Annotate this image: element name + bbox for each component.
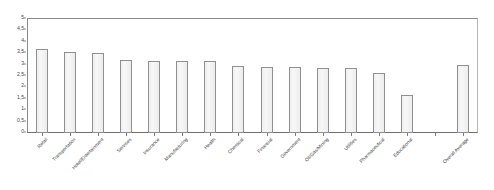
y-axis-tick-mark <box>24 18 26 19</box>
y-axis-tick-label: 4 <box>0 38 24 43</box>
x-axis-category-label-text: Overall Average <box>442 137 470 165</box>
y-axis-tick-mark <box>24 29 26 30</box>
x-axis-category-label-text: Government <box>279 137 301 159</box>
y-axis-tick-mark <box>24 120 26 121</box>
x-axis-category-label-text: Utilities <box>343 137 357 151</box>
x-axis-category-label-text: Hotel/Entertainment <box>71 137 104 170</box>
bar-slot <box>309 19 337 133</box>
bar <box>148 61 160 133</box>
bar-slot <box>365 19 393 133</box>
y-axis-tick-label: 3 <box>0 61 24 66</box>
bar-chart: 00,511,522,533,544,55 RetailTransportati… <box>0 0 494 190</box>
bar-slot <box>196 19 224 133</box>
y-axis-tick-label: 2,5 <box>0 72 24 77</box>
bar <box>289 67 301 133</box>
y-axis-tick-label: 4,5 <box>0 27 24 32</box>
bar-slot <box>168 19 196 133</box>
bar-slot <box>421 19 449 133</box>
x-axis-category-label-text: Oil/Gas/Mining <box>303 137 329 163</box>
y-axis-tick-label: 3,5 <box>0 50 24 55</box>
y-axis-tick-label: 1,5 <box>0 95 24 100</box>
x-axis-tick <box>154 133 155 136</box>
x-axis-tick <box>379 133 380 136</box>
bar-slot <box>253 19 281 133</box>
y-axis-tick-mark <box>24 86 26 87</box>
x-axis-tick <box>238 133 239 136</box>
bar <box>176 61 188 133</box>
x-axis-tick <box>42 133 43 136</box>
x-axis-category-label-text: Insurance <box>142 137 160 155</box>
bar <box>373 73 385 133</box>
x-axis-tick <box>126 133 127 136</box>
y-axis: 00,511,522,533,544,55 <box>0 18 24 133</box>
bar <box>261 67 273 133</box>
y-axis-tick-mark <box>24 52 26 53</box>
y-axis-tick-mark <box>24 63 26 64</box>
x-axis-category-label-text: Health <box>204 137 217 150</box>
y-axis-tick-label: 0 <box>0 129 24 134</box>
x-axis-category-label-text: Financial <box>256 137 273 154</box>
bar-slot <box>337 19 365 133</box>
y-axis-tick-mark <box>24 132 26 133</box>
x-axis-tick <box>98 133 99 136</box>
y-axis-tick-label: 5 <box>0 15 24 20</box>
x-axis-category-label-text: Chemical <box>227 137 245 155</box>
x-axis-tick <box>407 133 408 136</box>
x-axis-category-label-text: Pharmaceutical <box>358 137 385 164</box>
y-axis-tick-label: 2 <box>0 84 24 89</box>
y-axis-tick-mark <box>24 40 26 41</box>
x-axis-tick <box>295 133 296 136</box>
x-axis-labels: RetailTransportationHotel/EntertainmentS… <box>28 137 494 190</box>
bar-slot <box>56 19 84 133</box>
y-axis-tick-mark <box>24 75 26 76</box>
x-axis-category-label-text: Transportation <box>51 137 76 162</box>
x-axis-category-label-text: Manufacturing <box>164 137 189 162</box>
bar-slot <box>140 19 168 133</box>
bar-slot <box>449 19 477 133</box>
bar-slot <box>281 19 309 133</box>
x-axis-category-label-text: Services <box>116 137 133 154</box>
bar <box>232 66 244 133</box>
x-axis-tick <box>435 133 436 136</box>
y-axis-tick-mark <box>24 97 26 98</box>
x-axis-category-label-text: Educational <box>392 137 413 158</box>
x-axis-tick <box>210 133 211 136</box>
x-axis-tick <box>267 133 268 136</box>
bar-slot <box>28 19 56 133</box>
bar-slot <box>224 19 252 133</box>
x-axis-tick <box>323 133 324 136</box>
bar-slot <box>84 19 112 133</box>
x-axis-category-label-text: Retail <box>36 137 48 149</box>
x-axis-tick <box>70 133 71 136</box>
y-axis-tick-label: 0,5 <box>0 118 24 123</box>
bar <box>64 52 76 133</box>
x-axis-tick <box>351 133 352 136</box>
y-axis-tick-label: 1 <box>0 107 24 112</box>
x-axis-tick <box>182 133 183 136</box>
y-axis-tick-mark <box>24 109 26 110</box>
x-axis-tick <box>463 133 464 136</box>
bar <box>36 49 48 133</box>
bar <box>457 65 469 133</box>
